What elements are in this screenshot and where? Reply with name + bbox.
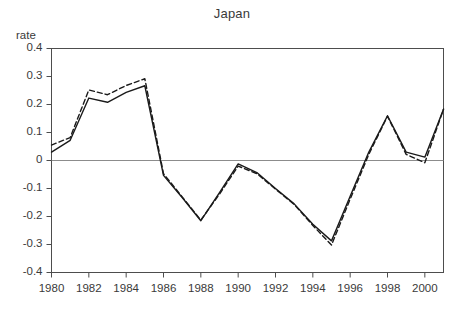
data-series-lines (52, 79, 444, 245)
x-axis-tick-label: 1988 (181, 282, 221, 294)
x-axis-tick-label: 1984 (106, 282, 146, 294)
y-axis-ticks (47, 49, 52, 273)
y-axis-tick-label: 0.3 (9, 69, 43, 81)
y-axis-tick-label: -0.4 (9, 265, 43, 277)
chart-figure: Japan rate 0.40.30.20.10-0.1-0.2-0.3-0.4… (0, 0, 464, 310)
x-axis-tick-label: 2000 (405, 282, 445, 294)
y-axis-tick-label: 0.2 (9, 97, 43, 109)
y-axis-tick-label: -0.2 (9, 209, 43, 221)
x-axis-tick-label: 1998 (368, 282, 408, 294)
y-axis-tick-label: 0.1 (9, 125, 43, 137)
y-axis-tick-label: -0.3 (9, 237, 43, 249)
x-axis-tick-label: 1986 (144, 282, 184, 294)
series-line-solid (52, 86, 444, 241)
y-axis-tick-label: 0 (9, 153, 43, 165)
y-axis-tick-label: -0.1 (9, 181, 43, 193)
x-axis-tick-label: 1994 (293, 282, 333, 294)
x-axis-tick-label: 1982 (69, 282, 109, 294)
x-axis-ticks (52, 273, 425, 278)
x-axis-tick-label: 1996 (330, 282, 370, 294)
plot-area (0, 0, 464, 310)
x-axis-tick-label: 1990 (218, 282, 258, 294)
x-axis-tick-label: 1980 (32, 282, 72, 294)
series-line-dashed (52, 79, 444, 245)
y-axis-tick-label: 0.4 (9, 41, 43, 53)
x-axis-tick-label: 1992 (256, 282, 296, 294)
